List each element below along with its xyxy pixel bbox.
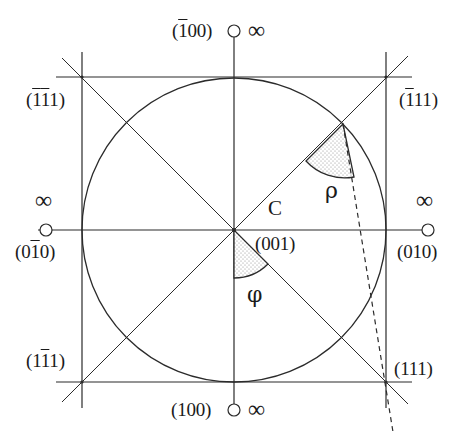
label-angle-rho: ρ <box>325 180 338 202</box>
infinity-symbol-bottom: ∞ <box>248 397 265 421</box>
label-center-c: C <box>268 198 282 219</box>
infinity-symbol-top: ∞ <box>248 18 265 42</box>
corner-point-top-right <box>384 75 387 78</box>
infinity-symbol-left: ∞ <box>35 188 52 212</box>
corner-point-bottom-left <box>80 380 83 383</box>
label-corner-bottom-right: (111) <box>394 359 433 378</box>
pole-marker-top <box>228 25 240 37</box>
label-pole-left: (010) <box>15 242 55 261</box>
pole-marker-left <box>40 224 52 236</box>
center-point <box>232 228 236 232</box>
corner-point-bottom-right <box>384 380 387 383</box>
label-corner-top-left: (111) <box>26 90 65 109</box>
pole-marker-right <box>422 224 434 236</box>
label-pole-bottom: (100) <box>171 400 211 419</box>
label-pole-center: (001) <box>255 234 295 253</box>
stereographic-projection <box>0 0 467 448</box>
label-pole-right: (010) <box>397 242 437 261</box>
label-corner-bottom-left: (111) <box>26 351 65 370</box>
label-angle-phi: φ <box>247 284 262 306</box>
infinity-symbol-right: ∞ <box>416 188 433 212</box>
label-pole-top: (100) <box>172 21 212 40</box>
label-corner-top-right: (111) <box>399 90 438 109</box>
pole-marker-bottom <box>228 404 240 416</box>
corner-point-top-left <box>80 75 83 78</box>
